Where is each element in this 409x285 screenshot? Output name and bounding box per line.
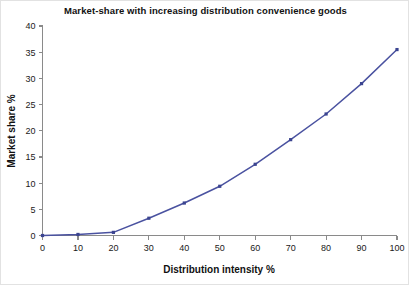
- y-tick-label: 30: [25, 74, 35, 84]
- data-point-marker: [41, 234, 44, 237]
- data-series-markers: [41, 48, 399, 237]
- x-axis-title: Distribution intensity %: [163, 264, 275, 275]
- x-tick-label: 90: [357, 243, 367, 253]
- data-point-marker: [360, 82, 363, 85]
- data-point-marker: [395, 48, 398, 51]
- y-tick-label: 15: [25, 152, 35, 162]
- x-tick-label: 0: [40, 243, 45, 253]
- data-series-line: [43, 50, 398, 236]
- y-tick-label: 25: [25, 100, 35, 110]
- x-tick-label: 60: [250, 243, 260, 253]
- y-tick-label: 35: [25, 48, 35, 58]
- data-point-marker: [147, 217, 150, 220]
- x-tick-label: 50: [215, 243, 225, 253]
- y-tick-label: 0: [30, 231, 35, 241]
- data-point-marker: [183, 201, 186, 204]
- data-point-marker: [289, 138, 292, 141]
- data-point-marker: [76, 233, 79, 236]
- data-point-marker: [112, 231, 115, 234]
- y-tick-label: 20: [25, 126, 35, 136]
- y-tick-label: 40: [25, 21, 35, 31]
- x-tick-label: 70: [286, 243, 296, 253]
- y-axis-title: Market share %: [6, 94, 17, 167]
- x-tick-label: 40: [179, 243, 189, 253]
- chart-figure: Market-share with increasing distributio…: [0, 0, 409, 285]
- x-tick-label: 20: [108, 243, 118, 253]
- x-tick-label: 100: [389, 243, 404, 253]
- y-tick-label: 10: [25, 179, 35, 189]
- x-tick-label: 10: [73, 243, 83, 253]
- data-point-marker: [218, 185, 221, 188]
- x-tick-label: 80: [321, 243, 331, 253]
- data-point-marker: [254, 163, 257, 166]
- data-point-marker: [325, 112, 328, 115]
- y-axis-ticks: 0510152025303540: [25, 21, 42, 241]
- x-axis-ticks: 0102030405060708090100: [40, 236, 405, 253]
- y-tick-label: 5: [30, 205, 35, 215]
- x-tick-label: 30: [144, 243, 154, 253]
- chart-plot-area: 0510152025303540 0102030405060708090100 …: [1, 1, 409, 285]
